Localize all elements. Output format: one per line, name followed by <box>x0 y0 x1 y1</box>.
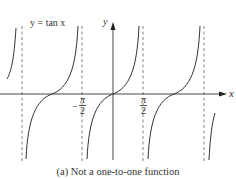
tick-numerator: π <box>139 95 148 105</box>
x-axis-arrow-icon <box>219 92 227 97</box>
y-axis-label: y <box>103 16 107 27</box>
tick-denominator: 2 <box>78 106 87 116</box>
curve-branch-1 <box>26 26 78 159</box>
tick-neg-pi-2-sign: − <box>72 101 78 112</box>
tick-neg-pi-2: π 2 <box>78 95 87 116</box>
y-axis-arrow-icon <box>111 22 116 30</box>
curve-branch-left-partial <box>7 28 16 79</box>
curve-branch-right-partial <box>209 113 215 160</box>
x-axis-label: x <box>229 87 234 99</box>
tick-denominator: 2 <box>139 106 148 116</box>
figure-caption: (a) Not a one-to-one function <box>0 166 236 177</box>
tick-pi-2: π 2 <box>139 95 148 116</box>
tick-numerator: π <box>78 95 87 105</box>
tan-curves <box>7 26 215 160</box>
function-label: y = tan x <box>30 17 65 28</box>
curve-branch-3 <box>148 26 200 159</box>
